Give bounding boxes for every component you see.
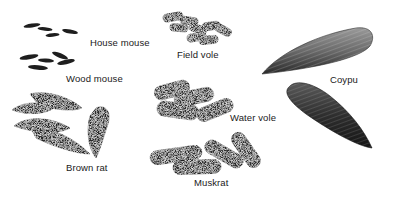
- label-coypu: Coypu: [330, 74, 358, 85]
- wood-mouse-droppings: [19, 50, 75, 70]
- label-water-vole: Water vole: [230, 112, 276, 123]
- label-house-mouse: House mouse: [90, 37, 150, 48]
- water-vole-droppings: [153, 79, 235, 124]
- house-mouse-droppings: [23, 22, 78, 37]
- field-vole-droppings: [162, 11, 232, 45]
- droppings-drawing: [0, 0, 394, 201]
- label-wood-mouse: Wood mouse: [66, 73, 123, 84]
- label-brown-rat: Brown rat: [66, 162, 108, 173]
- brown-rat-droppings: [12, 93, 109, 158]
- label-muskrat: Muskrat: [194, 177, 228, 188]
- coypu-droppings: [262, 28, 373, 148]
- muskrat-droppings: [149, 130, 263, 175]
- label-field-vole: Field vole: [177, 49, 219, 60]
- droppings-illustration: House mouse Wood mouse Field vole Coypu …: [0, 0, 394, 201]
